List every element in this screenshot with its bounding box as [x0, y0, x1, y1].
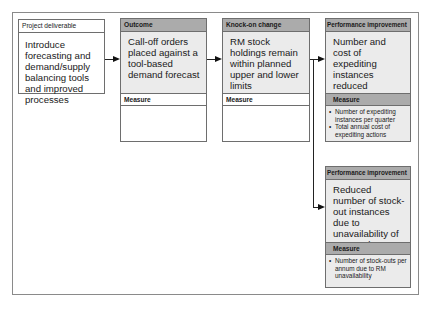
performance-improvement-2-header: Performance improvement	[326, 167, 410, 180]
outcome-header: Outcome	[121, 19, 206, 32]
arrow-right-icon	[215, 56, 222, 62]
performance-improvement-1-text: Number and cost of expediting instances …	[326, 32, 410, 94]
measure-item: Number of expediting instances per quart…	[329, 108, 407, 123]
knock-on-change-measure-body	[223, 106, 309, 141]
performance-improvement-2-measure-header: Measure	[326, 242, 410, 255]
measure-item: Number of stock-outs per annum due to RM…	[329, 257, 407, 280]
outcome-measure-body	[121, 106, 206, 141]
performance-improvement-1-header: Performance improvement	[326, 19, 410, 32]
performance-improvement-1-measure-header: Measure	[326, 93, 410, 106]
knock-on-change-measure-header: Measure	[223, 93, 309, 106]
performance-improvement-2-measures: Number of stock-outs per annum due to RM…	[326, 255, 410, 287]
arrow-right-icon	[318, 204, 325, 210]
project-deliverable-box: Project deliverable Introduce forecastin…	[18, 19, 105, 94]
arrow-right-icon	[113, 56, 120, 62]
performance-improvement-box-2: Performance improvement Reduced number o…	[325, 166, 411, 288]
performance-improvement-2-text: Reduced number of stock-out instances du…	[326, 180, 410, 243]
outcome-box: Outcome Call-off orders placed against a…	[120, 18, 207, 142]
outcome-text: Call-off orders placed against a tool-ba…	[121, 32, 206, 94]
measure-item: Total annual cost of expediting actions	[329, 123, 407, 138]
project-deliverable-header: Project deliverable	[19, 20, 104, 33]
outcome-measure-header: Measure	[121, 93, 206, 106]
arrow-right-icon	[318, 56, 325, 62]
performance-improvement-box-1: Performance improvement Number and cost …	[325, 18, 411, 142]
performance-improvement-1-measures: Number of expediting instances per quart…	[326, 106, 410, 141]
knock-on-change-text: RM stock holdings remain within planned …	[223, 32, 309, 94]
connector-line-vertical	[313, 59, 314, 208]
project-deliverable-text: Introduce forecasting and demand/supply …	[19, 33, 104, 93]
knock-on-change-header: Knock-on change	[223, 19, 309, 32]
knock-on-change-box: Knock-on change RM stock holdings remain…	[222, 18, 310, 142]
